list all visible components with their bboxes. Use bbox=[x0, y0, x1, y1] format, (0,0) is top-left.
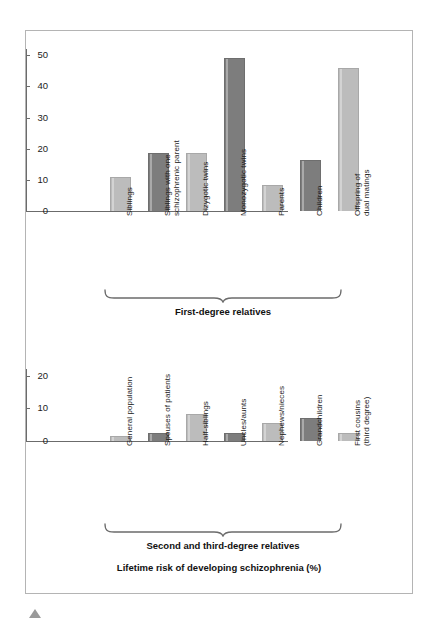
y-axis-tick-label: 0 bbox=[26, 206, 48, 216]
bar-highlight bbox=[340, 434, 342, 441]
x-axis-category-label: Monozygotic twins bbox=[239, 149, 248, 216]
brace-first-degree: First-degree relatives bbox=[104, 289, 342, 307]
bar-highlight bbox=[302, 161, 304, 211]
x-axis-category-label: Nephews/nieces bbox=[277, 386, 286, 446]
y-axis-line bbox=[26, 49, 27, 211]
bar-highlight bbox=[150, 154, 152, 211]
brace-second-third-degree: Second and third-degree relatives bbox=[104, 523, 342, 541]
bar-highlight bbox=[264, 424, 266, 441]
bar-highlight bbox=[264, 186, 266, 211]
x-axis-category-label: Parents bbox=[277, 188, 286, 216]
bar-highlight bbox=[302, 419, 304, 441]
bar-highlight bbox=[226, 434, 228, 441]
chart-first-degree-relatives: 01020304050SiblingsSiblings with one sch… bbox=[26, 31, 414, 341]
x-axis-category-label: General population bbox=[125, 377, 134, 446]
x-axis-category-label: Siblings with one schizophrenic parent bbox=[163, 140, 181, 216]
x-axis-category-label: Offspring of dual matings bbox=[353, 169, 371, 216]
figure-frame: 01020304050SiblingsSiblings with one sch… bbox=[25, 30, 413, 594]
chart-second-third-degree-relatives: 01020General populationSpouses of patien… bbox=[26, 341, 414, 541]
bar-highlight bbox=[188, 154, 190, 211]
x-axis-category-label: Dizygotic twins bbox=[201, 162, 210, 216]
triangle-up-icon bbox=[29, 609, 41, 618]
x-axis-category-label: Children bbox=[315, 185, 324, 216]
brace-label-second-third-degree: Second and third-degree relatives bbox=[104, 540, 342, 551]
x-axis-category-label: Half-siblings bbox=[201, 401, 210, 446]
y-axis-tick-label: 20 bbox=[26, 371, 48, 381]
bar-highlight bbox=[188, 415, 190, 441]
x-axis-line bbox=[26, 211, 288, 212]
plot-area-bottom: 01020General populationSpouses of patien… bbox=[26, 341, 414, 541]
bar-highlight bbox=[226, 59, 228, 211]
x-axis-category-label: Grandchildren bbox=[315, 394, 324, 446]
bar-highlight bbox=[112, 437, 114, 441]
x-axis-category-label: First cousins (third degree) bbox=[353, 397, 371, 446]
brace-label-first-degree: First-degree relatives bbox=[104, 306, 342, 317]
x-axis-category-label: Uncles/aunts bbox=[239, 399, 248, 446]
x-axis-category-label: Siblings bbox=[125, 187, 134, 216]
bar-highlight bbox=[112, 178, 114, 211]
y-axis-tick-label: 50 bbox=[26, 50, 48, 60]
x-axis-line bbox=[26, 441, 288, 442]
y-axis-tick-label: 30 bbox=[26, 113, 48, 123]
y-axis-tick-label: 10 bbox=[26, 175, 48, 185]
bar-highlight bbox=[150, 434, 152, 441]
y-axis-tick-label: 10 bbox=[26, 403, 48, 413]
y-axis-tick-label: 0 bbox=[26, 436, 48, 446]
figure-caption: Lifetime risk of developing schizophreni… bbox=[26, 562, 412, 573]
y-axis-tick-label: 20 bbox=[26, 144, 48, 154]
x-axis-category-label: Spouses of patients bbox=[163, 374, 172, 446]
y-axis-tick-label: 40 bbox=[26, 81, 48, 91]
bar-highlight bbox=[340, 69, 342, 211]
